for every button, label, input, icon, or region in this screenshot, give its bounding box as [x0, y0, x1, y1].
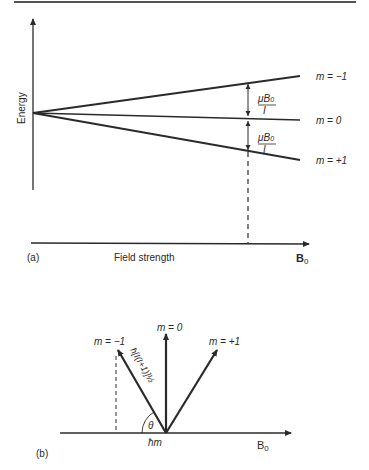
svg-text:I: I	[263, 144, 266, 155]
panel-b: θ m = 0 m = −1 m = +1 ħ[I(I+1)]½ ħm B0 (…	[36, 322, 291, 459]
panel-a-label: (a)	[27, 252, 39, 263]
level-label-m-0: m = 0	[316, 115, 342, 126]
svg-text:μB0: μB0	[257, 132, 274, 143]
energy-axis-label: Energy	[16, 92, 27, 124]
field-strength-label: Field strength	[114, 252, 175, 263]
vector-label-m-plus-1: m = +1	[209, 336, 240, 347]
vector-label-m-minus-1: m = −1	[94, 336, 125, 347]
splitting-label-lower: μB0 I	[257, 132, 276, 155]
splitting-label-upper: μB0 I	[257, 93, 276, 116]
panel-a: μB0 I μB0 I m = −1 m = 0 m = +1 Energy (…	[16, 19, 347, 266]
svg-text:I: I	[263, 105, 266, 116]
vector-label-m-0: m = 0	[157, 322, 183, 333]
level-line-m-0	[33, 113, 300, 120]
vector-m-plus-1	[166, 350, 217, 433]
field-axis-symbol: B0	[296, 252, 309, 266]
svg-text:μB0: μB0	[257, 93, 274, 104]
level-label-m-plus-1: m = +1	[316, 155, 347, 166]
level-label-m-minus-1: m = −1	[316, 71, 347, 82]
field-strength-axis	[31, 243, 309, 244]
theta-label: θ	[148, 420, 154, 431]
b0-axis-symbol: B0	[257, 439, 269, 453]
projection-label: ħm	[148, 437, 162, 448]
panel-b-label: (b)	[36, 448, 48, 459]
magnitude-label: ħ[I(I+1)]½	[128, 346, 156, 385]
zeeman-splitting-figure: μB0 I μB0 I m = −1 m = 0 m = +1 Energy (…	[0, 0, 369, 470]
